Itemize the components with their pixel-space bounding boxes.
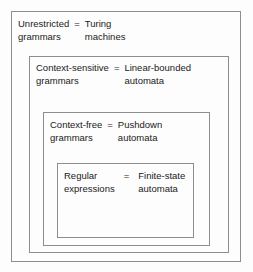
- machine-name-line2: automata: [118, 132, 162, 145]
- label-context-free-grammars: Context-free = Pushdown grammars automat…: [50, 119, 162, 144]
- machine-name-line2: automata: [138, 183, 185, 196]
- equals-sign: =: [114, 62, 120, 75]
- grammar-name-line2: grammars: [18, 31, 69, 44]
- label-regular-expressions: Regular = Finite-state expressions autom…: [64, 170, 185, 195]
- label-context-sensitive-grammars: Context-sensitive = Linear-bounded gramm…: [36, 62, 191, 87]
- machine-name-line1: Linear-bounded: [124, 62, 191, 75]
- grammar-name-line2: expressions: [64, 183, 115, 196]
- equals-sign: =: [74, 18, 80, 31]
- equals-sign: =: [107, 119, 113, 132]
- label-unrestricted-grammars: Unrestricted = Turing grammars machines: [18, 18, 125, 43]
- grammar-name-line2: grammars: [36, 75, 109, 88]
- equals-sign: =: [124, 170, 130, 183]
- machine-name-line2: machines: [85, 31, 126, 44]
- grammar-name-line1: Unrestricted: [18, 18, 69, 31]
- machine-name-line1: Pushdown: [118, 119, 162, 132]
- machine-name-line2: automata: [124, 75, 191, 88]
- grammar-name-line1: Regular: [64, 170, 115, 183]
- chomsky-hierarchy-diagram: Unrestricted = Turing grammars machines …: [0, 0, 253, 272]
- machine-name-line1: Turing: [85, 18, 126, 31]
- grammar-name-line1: Context-sensitive: [36, 62, 109, 75]
- machine-name-line1: Finite-state: [138, 170, 185, 183]
- grammar-name-line1: Context-free: [50, 119, 102, 132]
- grammar-name-line2: grammars: [50, 132, 102, 145]
